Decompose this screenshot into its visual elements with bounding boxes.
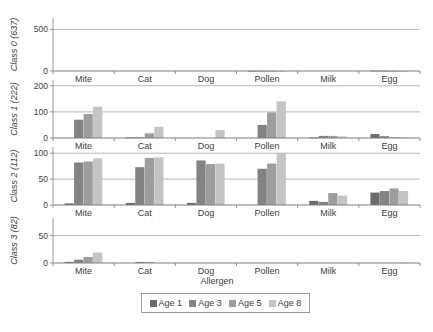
- bar: [93, 107, 102, 138]
- legend-swatch: [269, 300, 276, 307]
- y-tick-label: 500: [34, 24, 48, 34]
- bar: [370, 193, 379, 205]
- bar: [309, 201, 318, 205]
- x-tick-label: Mite: [75, 74, 92, 84]
- bar: [93, 158, 102, 205]
- y-tick-label: 0: [43, 258, 48, 268]
- y-tick-label: 50: [39, 231, 49, 241]
- legend-label: Age 5: [238, 298, 262, 308]
- y-tick-label: 100: [34, 148, 48, 158]
- x-tick-label: Egg: [381, 208, 397, 218]
- bar: [196, 160, 205, 205]
- bar: [399, 191, 408, 205]
- y-axis-title: Class 0 (637): [9, 18, 19, 72]
- bar: [215, 130, 224, 138]
- legend-item: Age 1: [150, 298, 183, 308]
- panel-3: 050Class 3 (82)MiteCatDogPollenMilkEgg: [9, 216, 420, 276]
- x-axis-title: Allergen: [200, 276, 233, 286]
- x-tick-label: Dog: [198, 141, 215, 151]
- x-tick-label: Milk: [320, 74, 336, 84]
- bar: [145, 158, 154, 205]
- x-tick-label: Egg: [381, 74, 397, 84]
- bar: [84, 257, 93, 263]
- x-tick-label: Cat: [138, 141, 153, 151]
- chart-legend: Age 1Age 3Age 5Age 8: [141, 293, 310, 313]
- x-tick-label: Cat: [138, 266, 153, 276]
- legend-swatch: [229, 300, 236, 307]
- legend-label: Age 3: [198, 298, 222, 308]
- x-tick-label: Milk: [320, 266, 336, 276]
- legend-item: Age 3: [189, 298, 222, 308]
- bar: [258, 169, 267, 205]
- x-tick-label: Dog: [198, 74, 215, 84]
- y-tick-label: 0: [43, 133, 48, 143]
- bar: [277, 101, 286, 138]
- bar: [93, 253, 102, 263]
- x-tick-label: Pollen: [255, 141, 280, 151]
- bar: [145, 133, 154, 138]
- panel-1: 0100200Class 1 (222)MiteCatDogPollenMilk…: [9, 80, 420, 151]
- legend-item: Age 8: [269, 298, 302, 308]
- bar: [328, 193, 337, 205]
- y-axis-title: Class 2 (112): [9, 150, 19, 203]
- x-tick-label: Cat: [138, 208, 153, 218]
- legend-swatch: [150, 300, 157, 307]
- y-axis-title: Class 1 (222): [9, 82, 19, 136]
- legend-swatch: [189, 300, 196, 307]
- legend-label: Age 1: [159, 298, 183, 308]
- x-tick-label: Dog: [198, 266, 215, 276]
- x-tick-label: Pollen: [255, 74, 280, 84]
- y-tick-label: 50: [39, 174, 49, 184]
- bar: [84, 114, 93, 138]
- y-tick-label: 200: [34, 81, 48, 91]
- bar: [154, 157, 163, 205]
- allergen-bar-chart: 0500Class 0 (637)MiteCatDogPollenMilkEgg…: [0, 0, 433, 332]
- bar: [135, 167, 144, 205]
- bar: [370, 134, 379, 138]
- x-tick-label: Egg: [381, 141, 397, 151]
- bar: [389, 188, 398, 205]
- x-tick-label: Milk: [320, 208, 336, 218]
- x-tick-label: Milk: [320, 141, 336, 151]
- x-tick-label: Dog: [198, 208, 215, 218]
- x-tick-label: Cat: [138, 74, 153, 84]
- y-tick-label: 100: [34, 107, 48, 117]
- bar: [74, 163, 83, 205]
- x-tick-label: Egg: [381, 266, 397, 276]
- bar: [267, 112, 276, 138]
- bar: [206, 164, 215, 205]
- x-tick-label: Pollen: [255, 266, 280, 276]
- bar: [267, 164, 276, 205]
- x-tick-label: Mite: [75, 208, 92, 218]
- bar: [380, 191, 389, 205]
- bar: [258, 125, 267, 138]
- y-tick-label: 0: [43, 200, 48, 210]
- bar: [84, 162, 93, 206]
- legend-label: Age 8: [278, 298, 302, 308]
- bar: [215, 164, 224, 205]
- y-axis-title: Class 3 (82): [9, 216, 19, 265]
- legend-item: Age 5: [229, 298, 262, 308]
- panel-2: 050100Class 2 (112)MiteCatDogPollenMilkE…: [9, 147, 420, 218]
- x-tick-label: Mite: [75, 141, 92, 151]
- bar: [277, 153, 286, 205]
- x-tick-label: Mite: [75, 266, 92, 276]
- x-tick-label: Pollen: [255, 208, 280, 218]
- y-tick-label: 0: [43, 66, 48, 76]
- bar: [154, 127, 163, 138]
- bar: [338, 196, 347, 205]
- panel-0: 0500Class 0 (637)MiteCatDogPollenMilkEgg: [9, 18, 420, 84]
- bar: [74, 120, 83, 138]
